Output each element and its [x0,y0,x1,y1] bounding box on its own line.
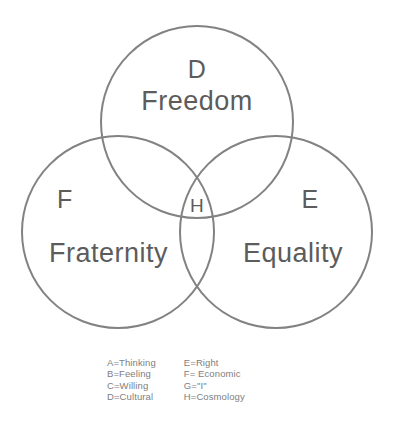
venn-label-letter-top: D [167,57,227,82]
legend-item: A=Thinking [107,357,156,368]
legend-column-left: A=Thinking B=Feeling C=Willing D=Cultura… [107,357,156,403]
venn-label-letter-right: E [290,187,330,212]
venn-label-letter-left: F [45,187,85,212]
legend-item: D=Cultural [107,391,156,402]
venn-diagram-canvas: D Freedom F Fraternity E Equality H A=Th… [0,0,394,427]
legend-item: B=Feeling [107,368,156,379]
venn-circle-fraternity [22,136,214,328]
legend: A=Thinking B=Feeling C=Willing D=Cultura… [107,357,245,403]
venn-label-center-intersection: H [182,196,212,215]
legend-item: E=Right [184,357,245,368]
venn-label-name-top: Freedom [127,88,267,115]
legend-column-right: E=Right F= Economic G="I" H=Cosmology [184,357,245,403]
legend-item: F= Economic [184,368,245,379]
legend-item: C=Willing [107,380,156,391]
legend-item: G="I" [184,380,245,391]
legend-item: H=Cosmology [184,391,245,402]
venn-label-name-left: Fraternity [26,240,191,267]
venn-label-name-right: Equality [218,240,368,267]
venn-circle-equality [180,136,372,328]
